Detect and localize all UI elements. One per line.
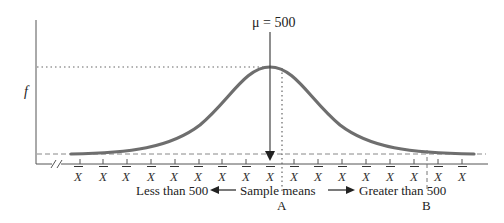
- x-tick-label: X: [71, 166, 85, 185]
- mean-label: μ = 500: [252, 16, 295, 30]
- x-tick-label: X: [119, 166, 133, 185]
- marker-b-label: B: [422, 199, 431, 212]
- x-tick-label: X: [455, 166, 469, 185]
- left-arrow-head: [210, 186, 219, 194]
- x-tick-label: X: [215, 166, 229, 185]
- less-than-label: Less than 500: [136, 184, 208, 197]
- mean-arrow-head: [265, 151, 275, 161]
- y-axis-label: f: [24, 85, 28, 99]
- x-tick-label: X: [96, 166, 110, 185]
- greater-than-label: Greater than 500: [359, 184, 446, 197]
- right-arrow-head: [346, 186, 355, 194]
- x-ticks: [80, 159, 462, 164]
- marker-a-label: A: [277, 199, 286, 212]
- normal-curve: [71, 67, 474, 154]
- x-tick-label: X: [335, 166, 349, 185]
- sample-means-label: Sample means: [240, 184, 315, 197]
